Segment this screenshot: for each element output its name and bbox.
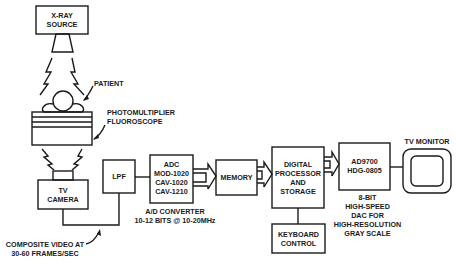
processor-label: DIGITALPROCESSORANDSTORAGE <box>272 160 324 196</box>
ad-converter-label: A/D CONVERTER10-12 BITS @ 10-20MHz <box>130 207 220 225</box>
dac-description-label: 8-BITHIGH-SPEEDDAC FORHIGH-RESOLUTIONGRA… <box>330 193 405 238</box>
keyboard-control-label: KEYBOARDCONTROL <box>272 230 325 248</box>
light-left-bolt-icon <box>42 149 54 170</box>
adc-label: ADCMOD-1020CAV-1020CAV-1210 <box>150 160 193 196</box>
fluoroscope-stack <box>32 112 92 145</box>
memory-processor-bus-arrow <box>257 162 272 187</box>
processor-dac-bus-arrow <box>324 152 339 176</box>
lpf-label: LPF <box>103 172 135 181</box>
tv-camera-lens <box>53 171 73 180</box>
patient-icon <box>42 91 83 112</box>
xray-right-bolt-icon <box>71 58 84 95</box>
adc-memory-bus-arrow <box>193 164 216 189</box>
composite-video-label: COMPOSITE VIDEO AT30-60 FRAMES/SEC <box>0 240 90 258</box>
light-right-bolt-icon <box>72 149 82 170</box>
memory-label: MEMORY <box>216 173 257 182</box>
xray-beam-collimator <box>52 34 73 52</box>
xray-source-label: X-RAYSOURCE <box>36 11 88 29</box>
fluoroscope-label: PHOTOMULTIPLIERFLUOROSCOPE <box>107 108 175 126</box>
tv-camera-label: TVCAMERA <box>38 186 88 204</box>
patient-label: PATIENT <box>94 79 124 88</box>
xray-left-bolt-icon <box>40 58 52 95</box>
tv-monitor-label: TV MONITOR <box>398 137 456 146</box>
dac-label: AD9700HDG-0805 <box>339 157 390 175</box>
